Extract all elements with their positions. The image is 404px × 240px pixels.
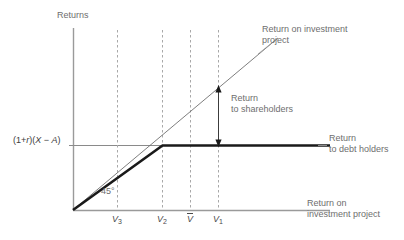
- annotation-return-to-debt-holders: Returnto debt holders: [329, 133, 389, 155]
- x-axis-title-line1: Return on: [307, 198, 347, 208]
- x-tick-label-vbar: V: [178, 213, 202, 224]
- annotation-shareholders-line1: Return: [231, 93, 258, 103]
- chart-figure: Returns (1+r)(X − A) 45° Return on inves…: [0, 0, 404, 240]
- x-axis-title-line2: investment project: [307, 209, 380, 219]
- y-axis-title: Returns: [57, 10, 89, 21]
- x-tick-label-v3: V3: [105, 214, 129, 227]
- formula-prefix: (1+: [13, 135, 26, 145]
- annotation-return-on-investment-project: Return on investmentproject: [262, 24, 348, 46]
- x-axis-title: Return oninvestment project: [307, 198, 380, 220]
- formula-suffix: ): [58, 135, 61, 145]
- x-tick-label-v2: V2: [150, 214, 174, 227]
- tick-v2-subscript: 2: [163, 218, 167, 225]
- annotation-shareholders-line2: to shareholders: [231, 104, 293, 114]
- x-tick-label-v1: V1: [206, 214, 230, 227]
- tick-v3-subscript: 3: [118, 218, 122, 225]
- formula-minus: −: [41, 135, 51, 145]
- annotation-roi-line1: Return on investment: [262, 24, 348, 34]
- y-axis-reference-label: (1+r)(X − A): [13, 135, 61, 146]
- tick-v1-subscript: 1: [219, 218, 223, 225]
- angle-label-45-degrees: 45°: [101, 186, 115, 197]
- line-return-on-investment-project: [73, 38, 278, 210]
- arrow-return-to-shareholders: [215, 85, 221, 147]
- annotation-debt-line1: Return: [329, 133, 356, 143]
- tick-vbar-base: V: [187, 213, 193, 224]
- annotation-return-to-shareholders: Returnto shareholders: [231, 93, 293, 115]
- annotation-debt-line2: to debt holders: [329, 144, 389, 154]
- annotation-roi-line2: project: [262, 35, 289, 45]
